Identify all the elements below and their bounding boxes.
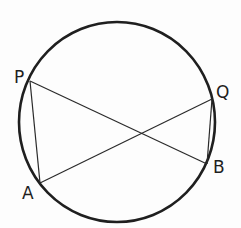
segment-PB xyxy=(30,81,207,164)
point-label-B: B xyxy=(213,157,225,177)
segment-PA xyxy=(30,81,40,183)
point-label-Q: Q xyxy=(216,82,229,102)
circle-chords-diagram: P Q B A xyxy=(0,0,241,228)
segment-AQ xyxy=(40,99,212,183)
point-label-A: A xyxy=(22,183,34,203)
point-label-P: P xyxy=(14,67,24,87)
